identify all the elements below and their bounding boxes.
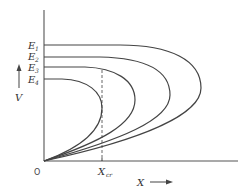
diagram-canvas: E 1 E 2 E 3 E 4 V O X cr X (0, 0, 248, 193)
x-axis-arrow-icon (166, 180, 173, 185)
y-axis-label: V (15, 92, 24, 103)
origin-label: O (34, 168, 40, 177)
critical-x-label: X (97, 166, 106, 177)
label-e3-sub: 3 (35, 67, 39, 74)
label-e4: E 4 (27, 74, 39, 86)
label-e4-sub: 4 (34, 79, 39, 86)
critical-x-subscript: cr (106, 171, 113, 178)
x-axis-label: X (136, 177, 145, 188)
y-axis-arrow-icon (17, 64, 22, 71)
label-e1-sub: 1 (35, 45, 39, 52)
curve-e1 (44, 45, 201, 161)
label-e3: E 3 (27, 62, 39, 74)
